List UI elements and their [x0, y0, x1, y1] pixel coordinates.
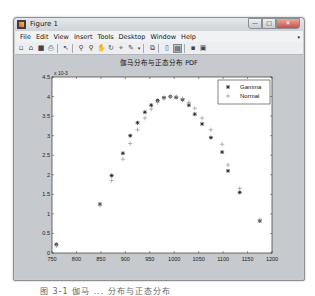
x-tick-label: 850 [96, 256, 105, 262]
x-tick-label: 1050 [193, 256, 205, 262]
x-tick-label: 1100 [217, 256, 229, 262]
x-tick-label: 950 [145, 256, 154, 262]
x-tick-label: 1200 [266, 256, 278, 262]
x-tick-label: 900 [121, 256, 130, 262]
y-exponent-label: x 10-3 [54, 70, 68, 76]
y-tick-label: 3 [47, 133, 50, 139]
y-tick-label: 1 [47, 211, 50, 217]
y-tick-label: 3.5 [42, 113, 50, 119]
y-tick-label: 4.5 [42, 74, 50, 80]
y-tick-label: 4 [47, 94, 50, 100]
x-tick-label: 1150 [242, 256, 254, 262]
figure-caption: 图 3-1 伽马 ... 分布与正态分布 [40, 285, 171, 296]
y-tick-label: 2 [47, 172, 50, 178]
y-tick-label: 1.5 [42, 191, 50, 197]
x-tick-label: 800 [72, 256, 81, 262]
x-tick-label: 1000 [168, 256, 180, 262]
y-tick-label: 0.5 [42, 230, 50, 236]
x-tick-label: 750 [47, 256, 56, 262]
y-tick-label: 2.5 [42, 152, 50, 158]
legend-entry: Normal [240, 93, 259, 99]
legend-entry: Gamma [240, 84, 262, 90]
y-tick-label: 0 [47, 250, 50, 256]
